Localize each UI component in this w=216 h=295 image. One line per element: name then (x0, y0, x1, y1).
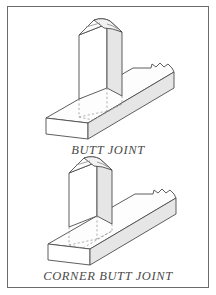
caption-corner-butt-joint: CORNER BUTT JOINT (8, 269, 208, 284)
corner-post-right-face (97, 162, 112, 224)
corner-butt-joint-drawing (8, 7, 210, 289)
figure-corner-butt-joint (8, 7, 208, 287)
illustration-page: BUTT JOINT (0, 0, 216, 295)
page-border-frame: BUTT JOINT (7, 6, 209, 288)
